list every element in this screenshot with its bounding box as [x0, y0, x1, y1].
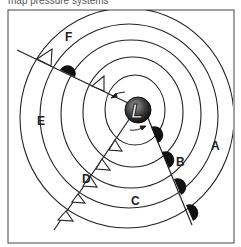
caption: map pressure systems: [8, 0, 109, 6]
low-pressure-center: L: [125, 97, 151, 123]
region-label-a: A: [211, 139, 220, 153]
region-label-f: F: [65, 30, 72, 44]
region-label-c: C: [131, 194, 140, 208]
low-symbol: L: [131, 100, 143, 122]
region-label-b: B: [176, 155, 185, 169]
weather-front-diagram: map pressure systems: [0, 0, 241, 247]
region-label-d: D: [82, 172, 91, 186]
region-label-e: E: [37, 114, 45, 128]
